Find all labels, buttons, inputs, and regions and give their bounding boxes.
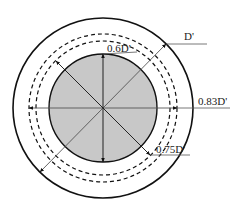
label-dashed-outer: 0.83D' bbox=[198, 95, 227, 107]
concentric-circle-diagram: D' 0.6D' 0.83D' 0.75D' bbox=[0, 0, 238, 214]
label-dashed-inner: 0.75D' bbox=[156, 143, 185, 155]
label-outer: D' bbox=[184, 30, 194, 42]
label-inner: 0.6D' bbox=[107, 42, 131, 54]
